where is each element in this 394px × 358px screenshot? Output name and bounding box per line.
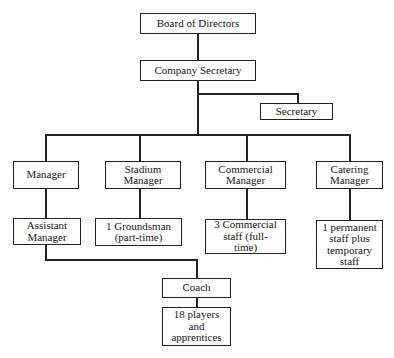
connector-department-bar [45, 134, 350, 136]
connector-assistant-down [45, 244, 47, 260]
connector-to-catering-manager [349, 134, 351, 161]
connector-to-secretary-vertical [297, 93, 299, 103]
connector-commercial-staff [246, 188, 248, 219]
connector-assistant-to-coach-horizontal [45, 259, 198, 261]
node-commercial-manager: Commercial Manager [205, 161, 286, 189]
node-board-of-directors: Board of Directors [140, 13, 256, 34]
connector-stadium-groundsman [139, 188, 141, 218]
connector-company-secretary-trunk [197, 80, 199, 136]
node-commercial-staff: 3 Commercial staff (full-time) [205, 219, 286, 254]
connector-to-commercial-manager [246, 134, 248, 161]
connector-board-secretary [197, 33, 199, 60]
connector-to-manager [45, 134, 47, 161]
node-secretary: Secretary [260, 103, 333, 120]
node-catering-manager: Catering Manager [316, 161, 383, 189]
node-stadium-manager: Stadium Manager [105, 161, 181, 189]
node-manager: Manager [13, 161, 79, 189]
connector-coach-players [196, 297, 198, 307]
connector-to-stadium-manager [139, 134, 141, 161]
node-coach: Coach [162, 278, 231, 298]
node-company-secretary: Company Secretary [140, 60, 256, 81]
node-catering-staff: 1 permanent staff plus temporary staff [316, 220, 383, 269]
connector-to-coach [196, 259, 198, 278]
connector-manager-assistant [45, 188, 47, 218]
node-groundsman: 1 Groundsman (part-time) [95, 218, 182, 246]
node-players: 18 players and apprentices [162, 307, 231, 346]
node-assistant-manager: Assistant Manager [13, 218, 81, 245]
connector-to-secretary-horizontal [197, 93, 298, 95]
connector-catering-staff [349, 188, 351, 220]
